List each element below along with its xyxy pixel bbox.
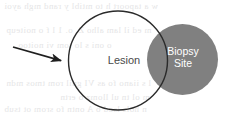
diagram-canvas: w a tapoort h to mtibl y rand mgh ayoi m… [0, 0, 237, 118]
biopsy-label-line1: Biopsy [167, 45, 199, 57]
pointer-arrow [13, 47, 61, 61]
lesion-label: Lesion [94, 54, 154, 67]
biopsy-site-label: Biopsy Site [153, 45, 213, 70]
biopsy-label-line2: Site [153, 57, 213, 69]
